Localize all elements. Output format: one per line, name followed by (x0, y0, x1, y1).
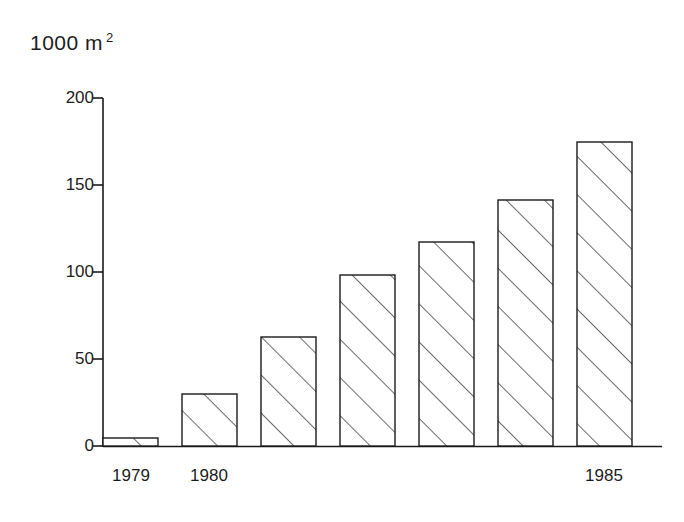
bar-1981 (261, 337, 316, 446)
bar-chart: 1000 m2 200 150 100 50 0 1979 1980 1985 (0, 0, 684, 522)
bar-1982 (340, 275, 395, 446)
bar-1984 (498, 200, 553, 446)
chart-canvas (0, 0, 684, 522)
bar-1980 (182, 394, 237, 446)
bar-1979 (103, 438, 158, 446)
bar-1983 (419, 242, 474, 446)
bar-1985 (577, 142, 632, 446)
